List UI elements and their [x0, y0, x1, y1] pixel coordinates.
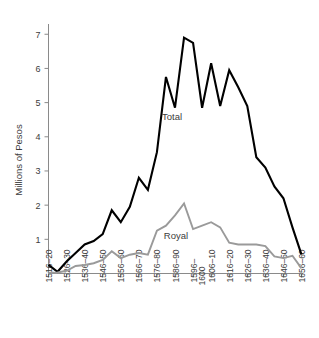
series-label-royal: Royal — [164, 230, 188, 241]
x-tick-label: 1600 — [197, 266, 207, 285]
y-tick-label: 7 — [35, 30, 40, 40]
y-axis-ticks: 1234567 — [35, 30, 48, 245]
x-tick-label: 1606–10 — [207, 249, 217, 282]
series-label-total: Total — [162, 111, 182, 122]
x-tick-label: 1616–20 — [225, 249, 235, 282]
x-tick-label: 1546–50 — [98, 249, 108, 282]
y-tick-label: 5 — [35, 98, 40, 108]
y-tick-label: 3 — [35, 166, 40, 176]
x-tick-label: 1576–80 — [152, 249, 162, 282]
x-tick-label: 1556–60 — [116, 249, 126, 282]
chart-container: 1234567 1516–201526–301536–401546–501556… — [0, 0, 319, 338]
y-axis-title: Millions of Pesos — [13, 124, 24, 196]
series-annotations: TotalRoyal — [162, 111, 188, 241]
line-chart: 1234567 1516–201526–301536–401546–501556… — [0, 0, 319, 338]
x-tick-label: 1646–50 — [279, 249, 289, 282]
y-tick-label: 2 — [35, 201, 40, 211]
x-axis-ticks: 1516–201526–301536–401546–501556–601566–… — [44, 249, 307, 285]
x-tick-label: 1636–40 — [261, 249, 271, 282]
x-tick-label: 1626–30 — [243, 249, 253, 282]
y-tick-label: 6 — [35, 64, 40, 74]
y-tick-label: 4 — [35, 132, 40, 142]
y-tick-label: 1 — [35, 235, 40, 245]
x-tick-label: 1586–90 — [171, 249, 181, 282]
